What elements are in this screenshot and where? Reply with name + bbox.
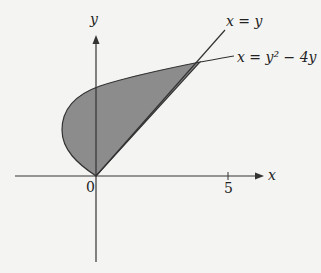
y-axis-arrow-icon [93,35,100,44]
parabola-label: x = y² − 4y [237,50,317,64]
graph-svg [0,0,321,273]
x-axis-arrow-icon [255,173,264,180]
parabola-extension [200,56,234,62]
origin-label: 0 [86,180,95,194]
y-axis-label: y [90,12,98,26]
shaded-region [62,62,200,176]
x-tick-5-label: 5 [224,181,233,195]
line-label: x = y [226,14,262,28]
x-axis-label: x [268,168,276,182]
figure-canvas: y x 0 5 x = y x = y² − 4y [0,0,321,273]
